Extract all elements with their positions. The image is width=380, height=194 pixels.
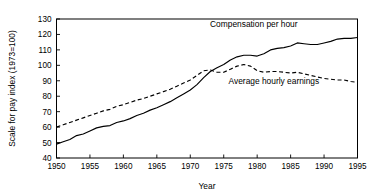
- plot-frame: [57, 19, 358, 158]
- y-tick-label: 100: [38, 61, 52, 70]
- pay-index-chart-figure: 405060708090100110120130 195019551960196…: [0, 0, 380, 194]
- x-tick-label: 1990: [315, 162, 334, 171]
- y-tick-label: 110: [38, 46, 51, 55]
- x-tick-label: 1955: [81, 162, 100, 171]
- x-tick-label: 1975: [215, 162, 234, 171]
- x-axis-title: Year: [199, 181, 216, 191]
- x-tick-label: 1980: [248, 162, 267, 171]
- y-tick-label: 130: [38, 15, 52, 24]
- series-label-2: Average hourly earnings: [229, 76, 320, 86]
- x-tick-label: 1960: [114, 162, 133, 171]
- y-tick-label: 70: [42, 108, 52, 117]
- x-tick-label: 1970: [181, 162, 200, 171]
- y-tick-label: 80: [42, 92, 52, 101]
- y-tick-label: 120: [38, 30, 52, 39]
- y-tick-label: 90: [42, 77, 52, 86]
- x-axis-ticks: 1950195519601965197019751980198519901995: [47, 155, 367, 172]
- y-axis-title: Scale for pay index (1973=100): [7, 30, 17, 147]
- x-tick-label: 1995: [348, 162, 367, 171]
- chart-canvas: 405060708090100110120130 195019551960196…: [0, 0, 380, 194]
- y-tick-label: 60: [42, 123, 52, 132]
- x-tick-label: 1985: [282, 162, 301, 171]
- x-tick-label: 1965: [148, 162, 167, 171]
- series-line-compensation-per-hour: [57, 38, 358, 145]
- x-tick-label: 1950: [47, 162, 66, 171]
- y-tick-label: 50: [42, 139, 52, 148]
- series-label-1: Compensation per hour: [210, 19, 298, 29]
